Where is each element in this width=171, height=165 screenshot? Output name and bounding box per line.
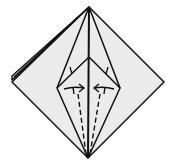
origami-diagram bbox=[0, 0, 171, 165]
center-crease bbox=[88, 7, 89, 158]
